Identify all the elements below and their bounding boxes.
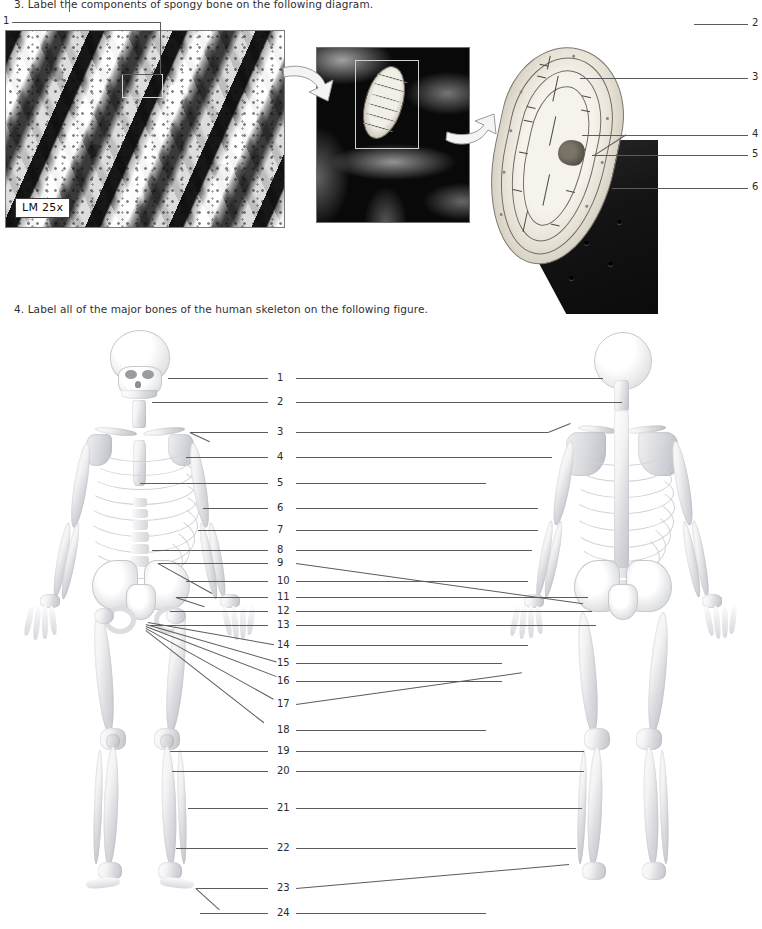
skel-label-20: 20 <box>277 766 290 776</box>
skel-label-14: 14 <box>277 640 290 650</box>
tibia-posterior-right <box>642 746 660 866</box>
metacarpal-posterior-right-3 <box>722 606 728 638</box>
spongy-label-2: 2 <box>752 18 758 28</box>
skel-label-17: 17 <box>277 699 290 709</box>
callout-arrow-right-1 <box>281 60 339 108</box>
skel-label-18: 18 <box>277 725 290 735</box>
skel-label-7: 7 <box>277 525 283 535</box>
skel-leader-3-right <box>296 432 548 433</box>
skel-leader-22-left <box>176 848 268 849</box>
metacarpal-posterior-right-2 <box>713 606 722 639</box>
lumbar-vertebra-4 <box>131 532 149 542</box>
lumbar-vertebra-1 <box>133 498 147 507</box>
skel-label-10: 10 <box>277 576 290 586</box>
skel-leader-19-right <box>296 751 584 752</box>
skel-leader-15-right <box>296 663 502 664</box>
spongy-label-1: 1 <box>3 16 9 26</box>
cervical-vertebrae <box>132 400 146 428</box>
skel-leader-4-right <box>296 457 552 458</box>
skel-label-8: 8 <box>277 545 283 555</box>
mandible <box>121 390 157 399</box>
spongy-label-5: 5 <box>752 149 758 159</box>
tibia-left <box>102 746 120 866</box>
skel-leader-14-right <box>296 645 528 646</box>
spongy-leader-1-branch <box>122 74 161 75</box>
skel-leader-4-left <box>186 457 268 458</box>
spongy-leader-6 <box>612 188 748 189</box>
tarsals-posterior-left <box>582 862 606 880</box>
skel-leader-7-right <box>296 530 538 531</box>
skel-leader-5-left <box>140 483 268 484</box>
skel-leader-23-left <box>196 888 268 889</box>
spongy-leader-3 <box>580 78 748 79</box>
spongy-label-6: 6 <box>752 182 758 192</box>
skel-leader-8-right <box>296 550 532 551</box>
metatarsals-left <box>86 876 121 889</box>
skel-label-16: 16 <box>277 676 290 686</box>
fibula-right <box>176 750 188 864</box>
tarsals-posterior-right <box>642 862 666 880</box>
metacarpal-left-4 <box>48 606 57 636</box>
skel-leader-2-right <box>296 402 622 403</box>
spongy-leader-1-horizontal <box>12 22 160 23</box>
fibula-left <box>92 750 104 864</box>
skel-label-13: 13 <box>277 620 290 630</box>
skel-leader-7-left <box>198 530 268 531</box>
spongy-leader-5 <box>592 155 748 156</box>
femoral-head-left <box>94 608 114 624</box>
spongy-leader-4 <box>582 135 748 136</box>
skel-label-21: 21 <box>277 803 290 813</box>
skel-label-4: 4 <box>277 452 283 462</box>
skel-label-3: 3 <box>277 427 283 437</box>
eye-socket-left <box>125 370 137 379</box>
thoracic-spine-posterior <box>614 410 629 570</box>
skel-leader-16-right <box>296 681 502 682</box>
spongy-leader-1-vertical <box>160 22 161 74</box>
femur-posterior-right <box>645 612 672 735</box>
skel-leader-20-left <box>172 771 268 772</box>
skel-leader-6-left <box>203 508 268 509</box>
skel-leader-18-right <box>296 730 486 731</box>
skel-leader-8-left <box>152 550 268 551</box>
spongy-leader-2-vertical <box>69 0 70 12</box>
sacrum-posterior <box>608 584 638 620</box>
skel-leader-11-right <box>296 597 588 598</box>
eye-socket-right <box>142 370 154 379</box>
skel-label-12: 12 <box>277 606 290 616</box>
tibia-posterior-left <box>586 746 604 866</box>
skel-leader-22-right <box>296 848 576 849</box>
lumbar-vertebra-5 <box>131 544 149 554</box>
skel-leader-24-left <box>200 913 268 914</box>
metacarpal-left-3 <box>42 606 48 639</box>
skel-label-24: 24 <box>277 908 290 918</box>
femur-posterior-left <box>575 612 602 735</box>
skel-label-22: 22 <box>277 843 290 853</box>
figure-human-skeleton: 1 2 3 4 5 6 7 8 9 10 11 12 13 14 1 <box>0 322 762 929</box>
skel-leader-20-right <box>296 771 584 772</box>
cervical-vertebrae-posterior <box>614 380 629 412</box>
lumbar-vertebra-2 <box>132 509 148 518</box>
skel-label-2: 2 <box>277 397 283 407</box>
skel-leader-5-right <box>296 483 486 484</box>
nasal-aperture <box>135 381 141 388</box>
fibula-posterior-left <box>576 750 588 864</box>
skel-label-23: 23 <box>277 883 290 893</box>
spongy-leader-2 <box>694 24 748 25</box>
skel-leader-13-right <box>296 625 596 626</box>
skel-leader-10-right <box>296 581 528 582</box>
figure-spongy-bone: LM 25x 1 2 <box>0 0 762 300</box>
fibula-posterior-right <box>658 750 670 864</box>
skel-leader-12-left <box>170 611 268 612</box>
skel-leader-24-right <box>296 913 486 914</box>
trabecula-cross-section <box>484 44 684 314</box>
skel-label-9: 9 <box>277 558 283 568</box>
metacarpal-posterior-right-4 <box>728 606 737 635</box>
spongy-label-3: 3 <box>752 72 758 82</box>
skel-leader-19-left <box>170 751 268 752</box>
skel-leader-10-left <box>186 581 268 582</box>
spongy-label-4: 4 <box>752 129 758 139</box>
skel-leader-17-right <box>296 672 522 705</box>
trabecula-selection-box <box>355 60 419 149</box>
skel-leader-21-right <box>296 808 582 809</box>
skel-label-19: 19 <box>277 746 290 756</box>
